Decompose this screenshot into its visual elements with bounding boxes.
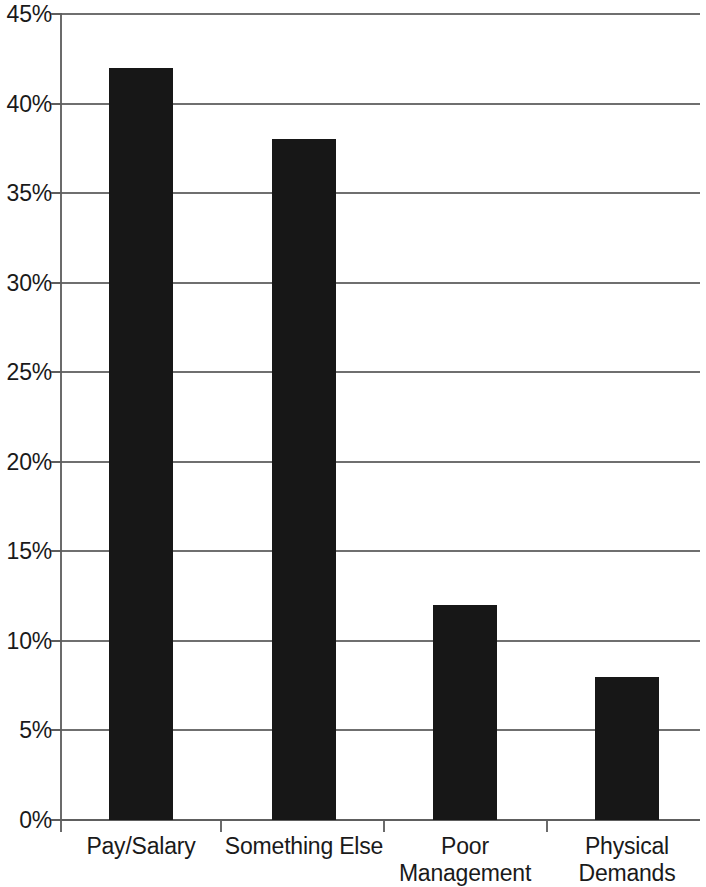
y-axis-tick-label: 30% bbox=[0, 271, 52, 294]
y-axis-tickmark bbox=[51, 103, 62, 105]
bar bbox=[595, 677, 659, 820]
y-axis-tickmark bbox=[51, 13, 62, 15]
y-axis-tick-label: 10% bbox=[0, 629, 52, 652]
y-axis-tickmark bbox=[51, 550, 62, 552]
y-axis-tick-label: 25% bbox=[0, 361, 52, 384]
x-axis-category-label: Physical Demands bbox=[517, 833, 706, 887]
y-axis-tickmark bbox=[51, 371, 62, 373]
y-axis-tick-label: 35% bbox=[0, 182, 52, 205]
y-axis-tick-label: 5% bbox=[0, 719, 52, 742]
y-axis-tickmark bbox=[51, 729, 62, 731]
y-axis-line bbox=[60, 13, 62, 822]
y-axis-tickmark bbox=[51, 461, 62, 463]
x-axis-tickmark bbox=[220, 821, 222, 832]
gridline bbox=[60, 13, 700, 15]
bar bbox=[272, 139, 336, 820]
y-axis-tick-label: 15% bbox=[0, 540, 52, 563]
y-axis-tickmark bbox=[51, 192, 62, 194]
y-axis-tick-label: 45% bbox=[0, 3, 52, 26]
y-axis-tickmark bbox=[51, 640, 62, 642]
x-axis-tickmark bbox=[383, 821, 385, 832]
y-axis-tick-label: 40% bbox=[0, 92, 52, 115]
y-axis: 0%5%10%15%20%25%30%35%40%45% bbox=[0, 0, 52, 883]
bar bbox=[433, 605, 497, 820]
y-axis-tickmark bbox=[51, 282, 62, 284]
x-axis-tickmark bbox=[546, 821, 548, 832]
x-axis-tickmark bbox=[60, 821, 62, 832]
y-axis-tick-label: 0% bbox=[0, 809, 52, 832]
y-axis-tick-label: 20% bbox=[0, 450, 52, 473]
bar bbox=[109, 68, 173, 820]
